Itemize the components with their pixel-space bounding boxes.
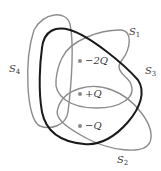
gauss-surfaces-diagram: S1 S2 S3 S4 −2Q +Q −Q xyxy=(0,0,161,171)
charge-label: −2Q xyxy=(85,56,108,66)
surface-s3-letter: S xyxy=(145,65,152,76)
surface-s2-subscript: 2 xyxy=(124,159,128,167)
charge-minus-q: −Q xyxy=(78,121,102,131)
charge-minus-2q: −2Q xyxy=(78,56,108,66)
charge-label: −Q xyxy=(85,121,102,131)
surface-s2-letter: S xyxy=(117,154,124,165)
surface-s4-letter: S xyxy=(9,63,16,74)
charge-plus-q: +Q xyxy=(78,89,102,99)
charge-label: +Q xyxy=(85,89,102,99)
charge-dot-icon xyxy=(78,92,82,96)
surface-s2-label: S2 xyxy=(117,155,128,167)
charge-dot-icon xyxy=(78,59,82,63)
surface-s3-label: S3 xyxy=(145,66,156,78)
surface-s1-subscript: 1 xyxy=(136,31,140,39)
surfaces-drawing xyxy=(0,0,161,171)
surface-s1-letter: S xyxy=(129,26,136,37)
surface-s1-label: S1 xyxy=(129,27,140,39)
surface-s4-subscript: 4 xyxy=(16,68,20,76)
surface-s4-label: S4 xyxy=(9,64,20,76)
charge-dot-icon xyxy=(78,124,82,128)
surface-s3-subscript: 3 xyxy=(152,70,156,78)
